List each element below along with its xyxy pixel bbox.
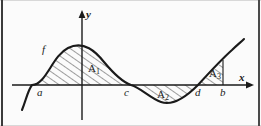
region-label-A2-base: A (157, 88, 165, 100)
region-label-A1-base: A (88, 62, 96, 74)
point-label-d: d (195, 87, 201, 98)
region-label-A1: A1 (88, 63, 100, 74)
y-axis-label: y (86, 9, 91, 20)
point-label-b: b (220, 87, 226, 98)
figure-canvas: y x f a c d b A1 A2 A3 (0, 0, 261, 126)
graph-svg (0, 0, 261, 126)
region-label-A2: A2 (157, 89, 169, 100)
region-label-A1-subscript: 1 (96, 67, 100, 76)
curve-label-f: f (42, 44, 45, 55)
point-label-a: a (37, 87, 43, 98)
region-label-A3-subscript: 3 (217, 72, 221, 81)
region-label-A3-base: A (209, 67, 217, 79)
point-label-c: c (124, 87, 129, 98)
region-label-A2-subscript: 2 (165, 93, 169, 102)
x-axis-label: x (239, 72, 245, 83)
region-label-A3: A3 (209, 68, 221, 79)
